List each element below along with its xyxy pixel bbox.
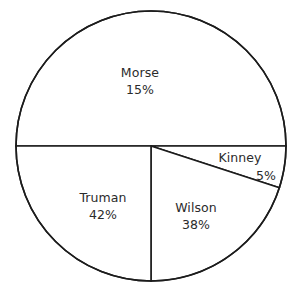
pie-chart-canvas <box>0 0 302 293</box>
pie-slice-group <box>16 11 286 281</box>
pie-chart: Morse15%Kinney5%Wilson38%Truman42% <box>0 0 302 293</box>
pie-slice-morse[interactable] <box>16 11 286 146</box>
pie-slice-truman[interactable] <box>16 146 151 281</box>
